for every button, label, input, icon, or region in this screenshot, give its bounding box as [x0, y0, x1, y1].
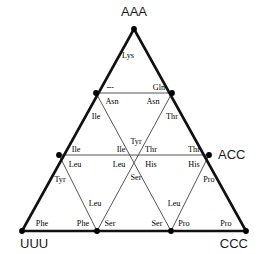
corner-label-aaa: AAA	[121, 4, 147, 19]
aa-phe-2: Phe	[77, 219, 90, 228]
aa-asn-1: Asn	[105, 97, 118, 106]
aa-dash: ---	[107, 83, 115, 92]
aa-ser-3: Ser	[152, 219, 163, 228]
aa-ile-2: Ile	[72, 145, 81, 154]
node-bot-m1	[94, 228, 100, 234]
aa-gln: Gln	[153, 83, 165, 92]
genetic-code-triangle-figure: Lys---GlnAsnAsnIleThrTyrIleIleThrThrLeuL…	[0, 0, 268, 254]
aa-leu-4: Leu	[168, 199, 181, 208]
aa-ser-2: Ser	[105, 219, 116, 228]
aa-leu-2: Leu	[113, 160, 126, 169]
node-bot-left	[19, 228, 25, 234]
figure-background	[0, 0, 268, 254]
triangle-diagram: Lys---GlnAsnAsnIleThrTyrIleIleThrThrLeuL…	[0, 0, 268, 254]
aa-ile-1: Ile	[92, 112, 101, 121]
node-apex	[131, 26, 137, 32]
corner-label-acc: ACC	[218, 147, 245, 162]
aa-thr-2: Thr	[145, 145, 157, 154]
corner-label-uuu: UUU	[20, 236, 48, 251]
node-bot-m2	[168, 228, 174, 234]
aa-lys: Lys	[122, 51, 134, 60]
aa-pro-3: Pro	[220, 219, 231, 228]
aa-thr-1: Thr	[166, 112, 178, 121]
aa-tyr-2: Tyr	[54, 175, 66, 184]
node-bot-right	[243, 228, 249, 234]
aa-pro-2: Pro	[178, 219, 189, 228]
aa-his-2: His	[188, 160, 199, 169]
node-gln-left	[93, 90, 99, 96]
node-gln-right	[169, 90, 175, 96]
aa-leu-1: Leu	[69, 160, 82, 169]
node-mid-left	[56, 152, 62, 158]
aa-tyr-1: Tyr	[130, 137, 142, 146]
node-mid-right	[206, 152, 212, 158]
aa-his-1: His	[145, 160, 156, 169]
aa-thr-3: Thr	[188, 145, 200, 154]
corner-label-ccc: CCC	[220, 236, 248, 251]
aa-ser-1: Ser	[131, 173, 142, 182]
aa-asn-2: Asn	[146, 97, 159, 106]
aa-ile-3: Ile	[117, 145, 126, 154]
aa-pro-1: Pro	[203, 175, 214, 184]
aa-leu-3: Leu	[89, 199, 102, 208]
aa-phe-1: Phe	[36, 219, 49, 228]
